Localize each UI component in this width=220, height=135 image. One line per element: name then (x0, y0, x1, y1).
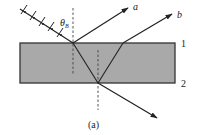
angle-label: θB (60, 17, 69, 29)
interface-label-2: 2 (181, 78, 186, 89)
brewster-angle-diagram: θB a b 1 2 (a) (0, 0, 220, 135)
interface-label-1: 1 (181, 38, 186, 49)
transmitted-ray-b (123, 14, 172, 43)
figure-caption: (a) (88, 119, 99, 131)
exit-ray (98, 83, 157, 118)
glass-slab (20, 43, 175, 83)
ray-label-b: b (177, 9, 182, 20)
ray-label-a: a (133, 1, 138, 12)
reflected-ray-a (73, 8, 128, 43)
